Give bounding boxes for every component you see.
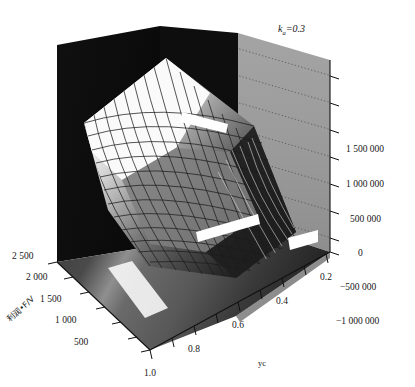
parameter-annotation: ka=0.3 xyxy=(278,23,305,36)
annotation-value: =0.3 xyxy=(286,23,305,34)
z-tick-label-5: −1 000 000 xyxy=(336,316,380,326)
surface-plot-figure: 2 500 2 000 1 500 1 000 500 利润•F/V 1.0 0… xyxy=(0,0,415,387)
y-tick-label-0: 2 500 xyxy=(12,251,34,261)
plot-canvas: 2 500 2 000 1 500 1 000 500 利润•F/V 1.0 0… xyxy=(0,0,415,387)
y-tick-label-1: 2 000 xyxy=(26,272,48,282)
svg-text:ka=0.3: ka=0.3 xyxy=(278,23,305,36)
y-tick-label-2: 1 500 xyxy=(40,294,62,304)
x-axis-title: уc xyxy=(258,358,266,368)
z-tick-label-2: 500 000 xyxy=(350,214,381,224)
x-tick-label-3: 0.4 xyxy=(276,296,288,306)
y-tick-label-3: 1 000 xyxy=(55,315,77,325)
x-tick-label-4: 0.2 xyxy=(320,272,332,282)
x-tick-label-1: 0.8 xyxy=(188,344,200,354)
z-tick-label-1: 1 000 000 xyxy=(346,179,384,189)
z-tick-label-0: 1 500 000 xyxy=(346,144,384,154)
z-tick-label-3: 0 xyxy=(358,248,363,258)
y-tick-label-4: 500 xyxy=(74,337,89,347)
z-tick-label-4: −500 000 xyxy=(340,282,376,292)
x-tick-label-2: 0.6 xyxy=(232,320,244,330)
x-tick-label-0: 1.0 xyxy=(144,368,156,378)
